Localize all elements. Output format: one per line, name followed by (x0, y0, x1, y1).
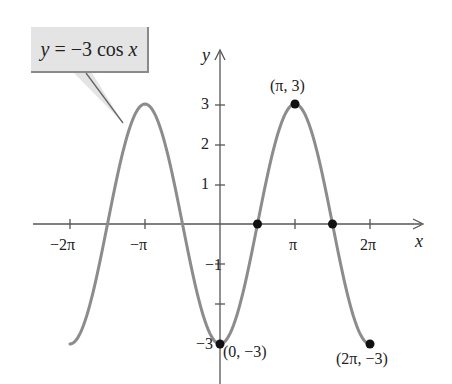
label-point-origin: (0, −3) (223, 343, 267, 361)
tick-label-y3: 3 (201, 95, 209, 113)
tick-label-pi: π (289, 236, 297, 254)
tick-label-y2: 2 (201, 135, 209, 153)
function-callout: y = −3 cos x (31, 27, 149, 73)
callout-y: y (41, 38, 50, 61)
point-max (291, 100, 300, 109)
callout-pointer-line (86, 73, 123, 123)
x-axis-label: x (415, 231, 423, 252)
tick-label-y1: 1 (201, 175, 209, 193)
y-axis-label: y (202, 45, 210, 66)
tick-label-yneg3: −3 (196, 335, 213, 353)
tick-label-yneg1: −1 (205, 256, 222, 274)
tick-label-neg2pi: −2π (50, 236, 75, 254)
callout-pointer (74, 73, 123, 123)
tick-label-2pi: 2π (360, 236, 376, 254)
point-end-min (366, 340, 375, 349)
tick-label-negpi: −π (130, 236, 147, 254)
label-point-end: (2π, −3) (336, 350, 388, 368)
callout-x: x (129, 38, 138, 61)
label-point-max: (π, 3) (270, 77, 305, 95)
callout-expr: = −3 cos (49, 38, 128, 61)
point-zero-1 (253, 220, 262, 229)
point-zero-2 (328, 220, 337, 229)
